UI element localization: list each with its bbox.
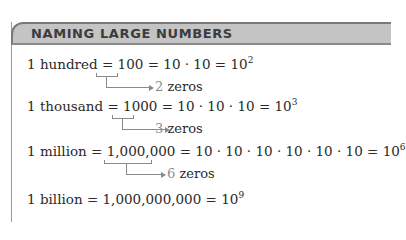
zeros-label: zeros (179, 166, 214, 181)
equals-sign: = (162, 98, 173, 114)
power-exponent: 2 (248, 55, 254, 65)
power-base: 10 (221, 191, 238, 207)
expansion: 10 · 10 · 10 · 10 · 10 · 10 (195, 143, 362, 159)
number-name: 1 billion (27, 191, 83, 207)
number-value: 100 (118, 56, 144, 72)
equals-sign: = (180, 143, 191, 159)
power-exponent: 9 (238, 190, 244, 200)
equals-sign: = (259, 98, 270, 114)
zeros-count: 2 (155, 79, 163, 94)
number-value: 1000 (123, 98, 157, 114)
row-million: 1 million = 1,000,000 = 10 · 10 · 10 · 1… (27, 142, 406, 159)
number-name: 1 thousand (27, 98, 103, 114)
power-base: 10 (383, 143, 400, 159)
power: 102 (230, 56, 253, 72)
equals-sign: = (206, 191, 217, 207)
zeros-count: 3 (155, 121, 163, 136)
equals-sign: = (102, 56, 113, 72)
equals-sign: = (148, 56, 159, 72)
number-name: 1 hundred (27, 56, 98, 72)
row-thousand: 1 thousand = 1000 = 10 · 10 · 10 = 103 (27, 97, 297, 114)
row-billion: 1 billion = 1,000,000,000 = 109 (27, 190, 244, 207)
zeros-count: 6 (167, 166, 175, 181)
power-exponent: 3 (292, 97, 298, 107)
zeros-note: 2 zeros (155, 79, 203, 94)
number-value: 1,000,000,000 (103, 191, 202, 207)
zeros-note: 3 zeros (155, 121, 203, 136)
zeros-label: zeros (167, 79, 202, 94)
power-base: 10 (230, 56, 247, 72)
power: 103 (275, 98, 298, 114)
arrow-icon (106, 76, 149, 88)
expansion: 10 · 10 · 10 (177, 98, 254, 114)
power: 109 (221, 191, 244, 207)
section-title: NAMING LARGE NUMBERS (31, 26, 233, 41)
equals-sign: = (215, 56, 226, 72)
power: 106 (383, 143, 406, 159)
expansion: 10 · 10 (163, 56, 210, 72)
equals-sign: = (107, 98, 118, 114)
zeros-label: zeros (167, 121, 202, 136)
power-base: 10 (275, 98, 292, 114)
equals-sign: = (87, 191, 98, 207)
power-exponent: 6 (400, 142, 406, 152)
equals-sign: = (91, 143, 102, 159)
number-name: 1 million (27, 143, 87, 159)
zeros-note: 6 zeros (167, 166, 215, 181)
section-header: NAMING LARGE NUMBERS (11, 22, 391, 45)
number-value: 1,000,000 (107, 143, 176, 159)
equals-sign: = (367, 143, 378, 159)
row-hundred: 1 hundred = 100 = 10 · 10 = 102 (27, 55, 253, 72)
arrow-icon (126, 163, 161, 175)
